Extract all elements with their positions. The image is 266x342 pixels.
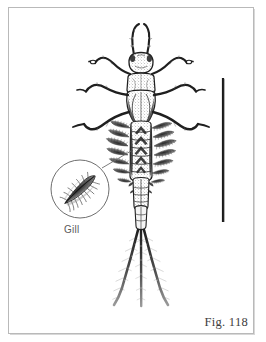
scale-bar xyxy=(223,78,224,222)
abdomen xyxy=(106,118,178,229)
abdominal-gills-right xyxy=(151,121,177,185)
figure-caption: Fig. 118 xyxy=(204,315,248,330)
abdominal-gills-left xyxy=(106,118,132,183)
figure-plate: Gill Fig. 118 xyxy=(0,0,266,342)
caudal-filaments xyxy=(112,230,169,306)
specimen-illustration xyxy=(0,0,266,342)
gill-label: Gill xyxy=(64,224,80,235)
